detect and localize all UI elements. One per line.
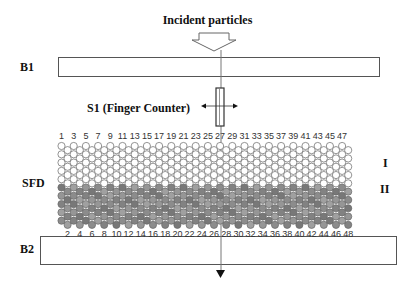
incident-arrow-icon: [192, 33, 236, 51]
fiber: [345, 188, 352, 195]
fiber: [345, 155, 352, 162]
fiber: [345, 221, 352, 228]
diagram-graphics: [0, 0, 415, 288]
fiber: [345, 171, 352, 178]
exit-arrow-icon: [216, 270, 225, 278]
fiber: [345, 213, 352, 220]
sfd-fiber-grid: [58, 142, 352, 228]
fiber: [345, 180, 352, 187]
s1-finger-counter: [216, 88, 224, 126]
fiber: [345, 163, 352, 170]
fiber: [345, 205, 352, 212]
fiber: [345, 196, 352, 203]
fiber: [345, 147, 352, 154]
